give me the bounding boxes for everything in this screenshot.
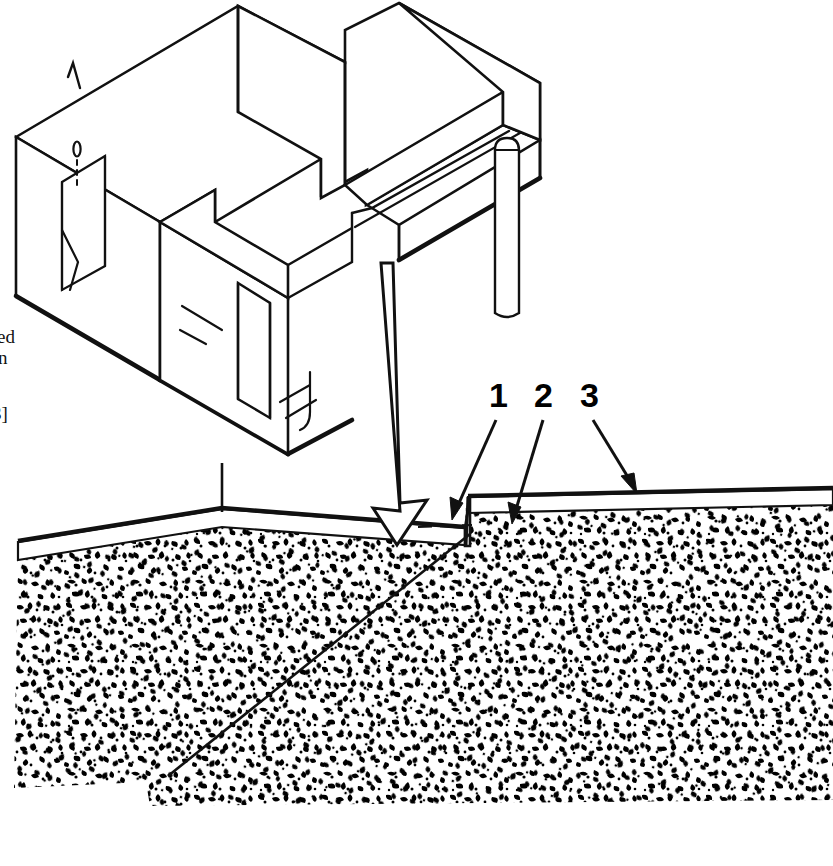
margin-text-ref: 3] xyxy=(0,403,8,424)
callout-label-3: 3 xyxy=(580,378,599,412)
break-mark xyxy=(68,63,80,88)
callout-label-2: 2 xyxy=(534,378,553,412)
technical-illustration xyxy=(0,0,833,866)
callout-label-1: 1 xyxy=(489,378,508,412)
margin-text-ed: ed xyxy=(0,326,15,347)
foundation-wall-isometric xyxy=(16,3,540,454)
margin-text-n: n xyxy=(0,347,8,368)
pipe-sleeve xyxy=(73,142,80,157)
vent-stack-pipe xyxy=(495,138,519,317)
